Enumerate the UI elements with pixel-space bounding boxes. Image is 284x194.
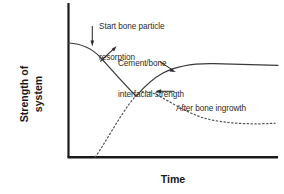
y-axis-label-line-2: system: [32, 44, 44, 144]
annotation-line-1: Start bone particle: [99, 22, 165, 32]
y-axis-label: Strength of system: [6, 44, 50, 144]
annotation-line-2: interfacial strength: [118, 90, 184, 100]
annotation-label-after-bone-ingrowth: After bone ingrowth: [176, 84, 246, 135]
x-axis-label: Time: [68, 173, 278, 185]
annotation-label-cement-bone-interfacial-strength: Cement/bone interfacial strength: [118, 39, 184, 121]
annotation-line-1: After bone ingrowth: [176, 104, 246, 114]
figure-chart-strength-vs-time: Start bone particle resorption Cement/bo…: [0, 0, 284, 194]
annotation-line-1: Cement/bone: [118, 59, 184, 69]
annotation-arrow-start-bone-particle-resorption: [91, 26, 95, 46]
y-axis-label-line-1: Strength of: [18, 44, 30, 144]
